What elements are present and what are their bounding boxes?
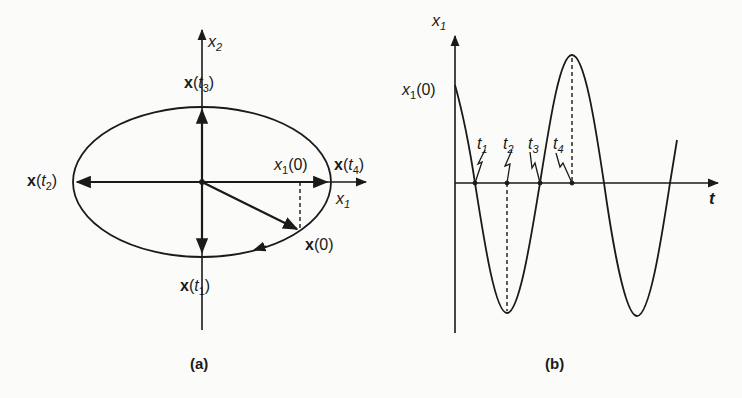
label-x-t2: x(t2) (27, 173, 57, 189)
origin-dot (200, 180, 205, 185)
t-axis-label: t (709, 190, 715, 207)
label-t1: t1 (477, 136, 488, 152)
label-x-t4: x(t4) (334, 157, 364, 173)
label-t4: t4 (553, 136, 564, 152)
label-x-0: x(0) (305, 237, 333, 253)
t3-dot (538, 181, 542, 185)
caption-b: (b) (545, 356, 564, 371)
label-x1-0: x1(0) (274, 157, 308, 173)
x1-time-curve (455, 55, 677, 316)
x1-axis-label: x1 (336, 191, 350, 207)
panel-b (455, 36, 718, 333)
caption-a: (a) (190, 356, 208, 371)
figure-canvas (0, 0, 742, 398)
label-x-t1: x(t1) (180, 278, 210, 294)
t1-dot (473, 181, 477, 185)
x1-vertical-axis-label: x1 (432, 13, 446, 29)
t4-leader (556, 153, 572, 183)
label-x-t3: x(t3) (184, 75, 214, 91)
label-x1-0-b: x1(0) (402, 82, 436, 98)
t4-dot (570, 181, 574, 185)
t3-leader (530, 152, 540, 183)
x2-axis-label: x2 (208, 34, 222, 50)
t2-dot (505, 181, 509, 185)
label-t3: t3 (528, 136, 539, 152)
panel-a (73, 30, 366, 330)
vector-x-0 (202, 182, 297, 229)
label-t2: t2 (503, 136, 514, 152)
